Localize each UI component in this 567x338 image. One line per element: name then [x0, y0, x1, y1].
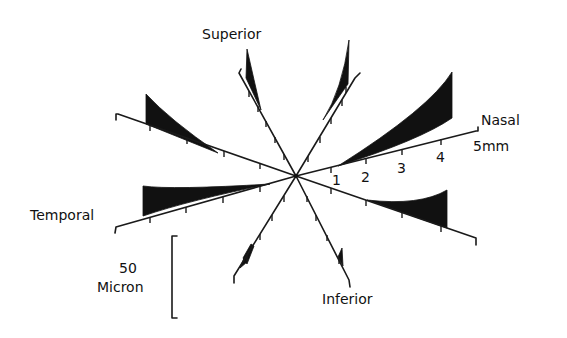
nasal-label: Nasal — [481, 112, 520, 128]
distance-unit-label: 5mm — [473, 138, 509, 154]
inferior-left-axis — [234, 176, 296, 283]
scale-unit-label: Micron — [97, 279, 144, 295]
radial-profile-diagram: Superior Nasal 5mm Temporal Inferior 50 … — [0, 0, 567, 338]
temporal-superior-profile — [146, 94, 218, 153]
center-point — [294, 174, 298, 178]
tick-number-4: 4 — [436, 149, 445, 165]
superior-label: Superior — [202, 26, 261, 42]
superior-right-profile — [323, 40, 349, 120]
tick-number-2: 2 — [361, 169, 370, 185]
inferior-label: Inferior — [322, 291, 373, 307]
temporal-superior-axis — [116, 114, 296, 176]
nasal-inferior-profile — [367, 190, 447, 228]
scale-value-label: 50 — [119, 260, 137, 276]
nasal-inferior-axis — [296, 176, 476, 245]
micron-scale-bar — [172, 236, 177, 318]
tick-number-3: 3 — [397, 160, 406, 176]
temporal-label: Temporal — [29, 207, 94, 223]
tick-number-1: 1 — [332, 172, 341, 188]
